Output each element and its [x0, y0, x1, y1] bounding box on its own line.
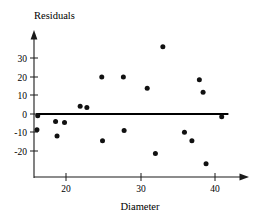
data-point	[204, 161, 209, 166]
data-point	[34, 127, 39, 132]
y-tick-label-20: 20	[18, 73, 28, 83]
scatter-chart-canvas: 30 20 10 0 -10 -20 20 30 40 Residuals Di…	[0, 0, 271, 220]
data-point	[219, 114, 224, 119]
data-point	[35, 113, 40, 118]
data-point	[78, 104, 83, 109]
data-point	[197, 77, 202, 82]
x-tick-labels: 20 30 40	[61, 184, 220, 194]
y-axis-title: Residuals	[34, 10, 75, 21]
data-point	[189, 138, 194, 143]
data-point	[145, 86, 150, 91]
y-tick-labels: 30 20 10 0 -10 -20	[14, 54, 27, 157]
residuals-axis	[31, 30, 38, 178]
data-point	[99, 75, 104, 80]
data-point	[53, 119, 58, 124]
data-point	[201, 90, 206, 95]
data-point	[84, 105, 89, 110]
y-tick-label-30: 30	[18, 54, 28, 64]
x-axis-arrow-icon	[240, 174, 250, 181]
x-axis-title: Diameter	[120, 201, 160, 212]
data-point	[153, 151, 158, 156]
residual-plot: 30 20 10 0 -10 -20 20 30 40 Residuals Di…	[0, 0, 271, 220]
data-point	[160, 44, 165, 49]
x-tick-label-20: 20	[61, 184, 71, 194]
y-tick-label-10: 10	[18, 91, 28, 101]
data-point	[55, 134, 60, 139]
data-point	[100, 138, 105, 143]
data-point	[182, 130, 187, 135]
data-point	[121, 75, 126, 80]
y-tick-label-neg20: -20	[14, 147, 27, 157]
data-point-series	[34, 44, 224, 166]
y-tick-label-neg10: -10	[14, 128, 27, 138]
x-tick-label-30: 30	[136, 184, 146, 194]
data-point	[62, 120, 67, 125]
x-tick-label-40: 40	[210, 184, 220, 194]
y-tick-label-0: 0	[22, 110, 27, 120]
data-point	[122, 128, 127, 133]
y-axis-arrow-icon	[31, 30, 38, 40]
